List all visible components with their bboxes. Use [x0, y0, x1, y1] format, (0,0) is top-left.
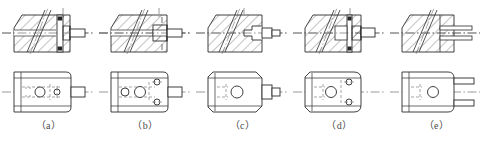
figure-b-front-sectional-view	[99, 8, 192, 54]
boss-step-1	[262, 28, 272, 38]
figure-e: （e）	[388, 0, 485, 145]
figure-c: （c）	[194, 0, 291, 145]
prong-lower	[440, 36, 472, 40]
figure-e-front-sectional-view	[390, 8, 480, 54]
boss-step-2	[272, 30, 280, 36]
figure-b: （b）	[97, 0, 194, 145]
figure-c-top-plan-view	[196, 72, 289, 112]
figure-a: （a）	[0, 0, 97, 145]
plug-hatched	[63, 26, 70, 40]
plan-prong-upper	[454, 78, 474, 84]
boss-cylinder	[167, 29, 182, 37]
centre-hole	[231, 86, 243, 98]
vertical-rib	[347, 15, 352, 52]
centre-hole	[135, 87, 146, 98]
figure-c-caption: （c）	[194, 120, 291, 132]
figure-b-top-plan-view	[99, 72, 192, 112]
figure-d-drawing	[291, 0, 388, 120]
figure-c-front-sectional-view	[196, 8, 289, 54]
figure-d-top-plan-view	[293, 72, 386, 112]
plan-prong-lower	[454, 100, 474, 106]
figure-a-caption: （a）	[0, 120, 97, 132]
left-hole	[121, 88, 129, 96]
plan-tongue	[168, 87, 182, 97]
centre-hole	[428, 87, 439, 98]
plan-boss-step-1	[262, 85, 272, 99]
figure-e-drawing	[388, 0, 485, 120]
figure-d-front-sectional-view	[293, 8, 386, 54]
centre-hole	[35, 87, 45, 97]
flange-web	[57, 15, 63, 52]
figure-d-caption: （d）	[291, 120, 388, 132]
body-outline	[402, 15, 454, 52]
rib-block-top	[348, 17, 352, 21]
figure-e-caption: （e）	[388, 120, 485, 132]
figure-b-caption: （b）	[97, 120, 194, 132]
centre-hole	[326, 87, 337, 98]
keyway-block-top	[58, 17, 63, 21]
drawing-sheet: （a）	[0, 0, 487, 145]
boss-cylinder	[70, 29, 85, 37]
boss-rectangular	[361, 28, 375, 37]
keyway-block-bottom	[58, 47, 63, 51]
figure-d: （d）	[291, 0, 388, 145]
figure-e-top-plan-view	[390, 72, 480, 112]
figure-a-drawing	[0, 0, 97, 120]
figure-a-top-plan-view	[2, 72, 95, 112]
figure-c-drawing	[194, 0, 291, 120]
plan-boss-step-2	[272, 88, 280, 96]
plan-tongue	[71, 87, 85, 97]
figure-a-front-sectional-view	[2, 8, 95, 54]
rib-block-bottom	[348, 47, 352, 51]
figure-b-drawing	[97, 0, 194, 120]
prong-upper	[440, 26, 472, 30]
